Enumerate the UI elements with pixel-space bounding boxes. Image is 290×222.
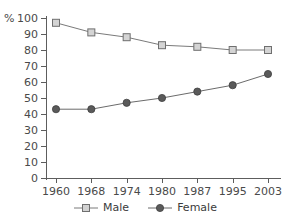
series-line-female [56, 74, 268, 109]
data-point-female-1987 [194, 88, 201, 95]
data-point-female-1974 [123, 99, 130, 106]
series-female [52, 70, 271, 112]
data-point-female-1960 [52, 106, 59, 113]
line-chart: % 1009080706050403020100 196019681974198… [0, 0, 290, 222]
legend-label-female: Female [177, 202, 217, 214]
data-point-male-1980 [159, 42, 166, 49]
legend-item-male[interactable]: Male [73, 202, 129, 214]
data-point-female-1980 [158, 94, 165, 101]
legend-marker-filled-circle [147, 202, 173, 214]
legend-marker-open-square [73, 202, 99, 214]
data-point-male-2003 [265, 47, 272, 54]
data-point-female-1995 [229, 82, 236, 89]
legend-item-female[interactable]: Female [147, 202, 217, 214]
data-point-male-1960 [53, 19, 60, 26]
legend: Male Female [0, 202, 290, 214]
data-point-female-1968 [88, 106, 95, 113]
data-point-male-1995 [229, 47, 236, 54]
data-point-male-1974 [123, 34, 130, 41]
series-male [53, 19, 272, 53]
series-layer [0, 0, 290, 222]
legend-label-male: Male [103, 202, 129, 214]
data-point-female-2003 [264, 70, 271, 77]
data-point-male-1968 [88, 29, 95, 36]
data-point-male-1987 [194, 43, 201, 50]
